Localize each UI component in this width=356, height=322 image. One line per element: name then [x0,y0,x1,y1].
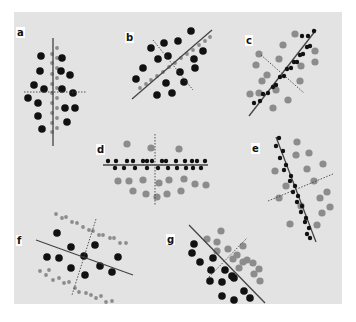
dark-large-dot [43,253,51,261]
gray-small-dot [75,221,79,225]
gray-small-dot [55,96,59,100]
dark-small-dot [261,92,265,96]
dark-small-dot [304,216,308,220]
gray-small-dot [62,281,66,285]
gray-small-dot [124,241,128,245]
dark-large-dot [228,272,236,280]
dark-small-dot [156,166,160,170]
gray-large-dot [239,242,246,249]
dark-small-dot [295,200,299,204]
dark-small-dot [164,159,168,163]
dark-small-dot [293,184,297,188]
dark-small-dot [195,159,199,163]
dark-large-dot [209,254,217,262]
gray-large-dot [123,140,130,147]
dark-large-dot [240,287,248,295]
gray-small-dot [99,294,103,298]
gray-small-dot [55,46,59,50]
gray-small-dot [55,76,59,80]
gray-large-dot [153,193,160,200]
dark-small-dot [284,163,288,167]
dark-small-dot [281,149,285,153]
dark-small-dot [300,34,304,38]
dark-small-dot [184,166,188,170]
dark-small-dot [203,159,207,163]
dark-small-dot [131,159,135,163]
dark-small-dot [145,166,149,170]
gray-small-dot [44,273,48,277]
dark-small-dot [133,166,137,170]
dark-large-dot [91,241,99,249]
gray-small-dot [70,220,74,224]
gray-small-dot [67,280,71,284]
gray-large-dot [252,61,259,68]
dark-small-dot [278,75,282,79]
dark-small-dot [274,144,278,148]
gray-small-dot [54,212,58,216]
dark-large-dot [164,52,172,60]
dark-small-dot [312,29,316,33]
panel-label-c: c [245,35,253,46]
dark-large-dot [71,104,79,112]
minor-axis-dashed-line [153,40,193,90]
dark-large-dot [218,292,226,300]
dark-large-dot [218,278,226,286]
gray-large-dot [271,167,278,174]
dark-large-dot [154,55,162,63]
dark-large-dot [57,67,65,75]
dark-large-dot [132,75,140,83]
panel-label-a: a [16,27,25,38]
gray-small-dot [101,233,105,237]
dark-large-dot [190,240,198,248]
gray-large-dot [263,71,270,78]
dark-small-dot [174,159,178,163]
dark-small-dot [289,66,293,70]
gray-large-dot [180,175,187,182]
dark-large-dot [34,99,42,107]
dark-large-dot [58,54,66,62]
dark-small-dot [125,159,129,163]
dark-small-dot [190,159,194,163]
panel-label-g: g [166,234,175,245]
dark-small-dot [289,174,293,178]
gray-large-dot [282,182,289,189]
dark-large-dot [38,125,46,133]
dark-small-dot [308,44,312,48]
gray-large-dot [319,160,326,167]
gray-large-dot [316,194,323,201]
gray-small-dot [118,241,122,245]
gray-small-dot [60,216,64,220]
dark-large-dot [221,266,229,274]
gray-large-dot [303,165,310,172]
dark-small-dot [278,156,282,160]
gray-small-dot [208,35,212,39]
gray-large-dot [250,270,257,277]
gray-large-dot [224,245,231,252]
dark-large-dot [55,254,63,262]
gray-small-dot [89,293,93,297]
dark-small-dot [160,159,164,163]
panel-label-f: f [16,235,22,246]
dark-large-dot [36,67,44,75]
gray-small-dot [191,48,195,52]
dark-large-dot [30,81,38,89]
gray-large-dot [256,277,263,284]
gray-small-dot [84,291,88,295]
gray-large-dot [155,179,162,186]
dark-large-dot [246,294,254,302]
dark-large-dot [53,229,61,237]
dark-large-dot [67,243,75,251]
dark-large-dot [191,64,199,72]
dark-small-dot [282,168,286,172]
dark-large-dot [168,89,176,97]
dark-small-dot [274,83,278,87]
dark-large-dot [230,296,238,304]
gray-large-dot [177,187,184,194]
gray-large-dot [292,151,299,158]
gray-small-dot [38,269,42,273]
dark-large-dot [81,271,89,279]
dark-small-dot [141,159,145,163]
gray-large-dot [313,221,320,228]
dark-small-dot [277,136,281,140]
gray-large-dot [129,187,136,194]
